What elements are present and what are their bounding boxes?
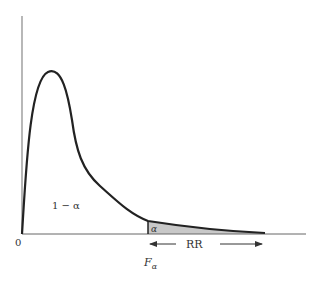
acceptance-area-label: 1 − α	[52, 200, 80, 211]
critical-value-main: F	[143, 256, 152, 269]
critical-value-sub: α	[152, 262, 158, 271]
tail-area-label: α	[151, 224, 157, 234]
f-distribution-diagram: 0 1 − α α RR Fα	[0, 0, 322, 282]
rejection-region-label: RR	[186, 238, 203, 251]
critical-value-label: Fα	[143, 256, 158, 271]
origin-label: 0	[15, 237, 21, 248]
